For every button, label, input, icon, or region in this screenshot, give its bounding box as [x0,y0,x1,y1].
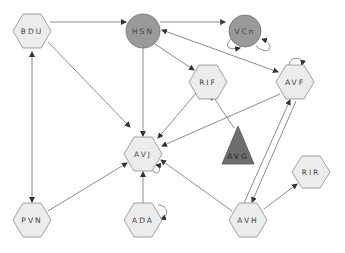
node-label: VCn [234,27,255,36]
node-label: RIF [199,78,217,87]
node-label: AVH [237,216,258,225]
edge-avh-avj [161,160,232,211]
edges [32,19,302,219]
node-avh[interactable]: AVH [229,203,267,237]
node-avj[interactable]: AVJ [124,137,162,171]
edge-bdu-avj [48,42,130,127]
node-rif[interactable]: RIF [189,65,227,99]
edge-avf-avh [252,101,296,202]
node-label: RIR [302,168,321,177]
edge-pvn-avj [48,163,127,211]
node-avg[interactable]: AVG [222,126,254,164]
node-label: BDU [21,27,43,36]
node-rir[interactable]: RIR [292,156,330,188]
node-ada[interactable]: ADA [124,203,162,237]
node-hsn[interactable]: HSN [126,14,160,48]
node-label: AVG [227,152,249,161]
edge-hsn-rif [155,44,194,70]
network-diagram: BDU HSN VCn RIF AVF AVJ AVG PVN ADA AVH … [0,0,345,253]
node-pvn[interactable]: PVN [13,203,51,237]
edge-hsn-avf [162,30,278,72]
node-label: PVN [21,216,42,225]
node-bdu[interactable]: BDU [13,14,51,48]
node-vcn[interactable]: VCn [229,15,261,47]
node-label: AVF [285,78,305,87]
edge-rif-avj [158,92,197,138]
self-loop-avf [289,58,302,65]
edge-avg-rif [214,98,234,128]
node-label: AVJ [134,150,152,159]
node-label: ADA [132,216,154,225]
edge-avh-avf [244,100,290,203]
edge-avf-avj [162,94,280,146]
edge-avh-rir [264,184,297,209]
node-avf[interactable]: AVF [276,65,314,99]
node-label: HSN [132,27,154,36]
